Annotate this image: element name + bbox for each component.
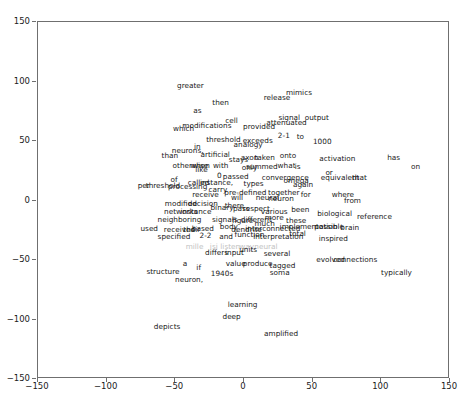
x-tick-mark bbox=[312, 378, 313, 382]
word-point: connections bbox=[333, 256, 377, 263]
word-point: what bbox=[278, 162, 296, 169]
word-point: depicts bbox=[154, 323, 180, 330]
word-point: artificial bbox=[200, 152, 230, 159]
word-point: only bbox=[242, 165, 257, 172]
x-tick-label: 0 bbox=[223, 381, 263, 391]
word-point: on bbox=[411, 164, 420, 171]
word-point: taken bbox=[254, 154, 274, 161]
word-embedding-scatter-figure: −150−100−50050100150 −150−100−5005010015… bbox=[0, 0, 475, 411]
word-point: output bbox=[305, 115, 329, 122]
x-tick-mark bbox=[243, 378, 244, 382]
y-tick-label: −50 bbox=[0, 254, 30, 264]
x-tick-mark bbox=[174, 378, 175, 382]
y-tick-label: 0 bbox=[0, 195, 30, 205]
x-tick-label: 50 bbox=[292, 381, 332, 391]
word-point: for bbox=[301, 191, 311, 198]
word-point: reference bbox=[357, 214, 392, 221]
y-tick-mark bbox=[32, 319, 36, 320]
word-point: to bbox=[297, 134, 304, 141]
x-tick-label: −150 bbox=[17, 381, 57, 391]
word-point: then bbox=[212, 99, 229, 106]
word-point: 2-1 bbox=[278, 133, 290, 140]
word-point: neuron bbox=[268, 196, 294, 203]
word-point: learning bbox=[228, 302, 258, 309]
word-point: from bbox=[344, 197, 361, 204]
word-point: typically bbox=[381, 269, 412, 276]
word-point: if bbox=[196, 265, 201, 272]
word-point: onto bbox=[280, 153, 296, 160]
word-point: been bbox=[291, 206, 309, 213]
word-point: amplified bbox=[264, 330, 298, 337]
word-point: like bbox=[195, 166, 208, 173]
word-point: again bbox=[293, 181, 313, 188]
y-tick-label: −100 bbox=[0, 314, 30, 324]
word-point: biological bbox=[317, 210, 352, 217]
word-point: used bbox=[140, 225, 158, 232]
word-point: inspired bbox=[319, 235, 348, 242]
y-tick-mark bbox=[32, 378, 36, 379]
word-point: structure bbox=[146, 268, 179, 275]
word-point: as bbox=[193, 108, 201, 115]
y-tick-label: 150 bbox=[0, 16, 30, 26]
word-point: brain bbox=[340, 224, 359, 231]
word-point: several bbox=[264, 250, 291, 257]
x-tick-label: −100 bbox=[86, 381, 126, 391]
x-tick-label: 150 bbox=[429, 381, 469, 391]
y-tick-mark bbox=[32, 259, 36, 260]
word-point: deep bbox=[223, 313, 241, 320]
y-tick-mark bbox=[32, 140, 36, 141]
word-point: will bbox=[231, 194, 243, 201]
y-tick-mark bbox=[32, 21, 36, 22]
x-tick-mark bbox=[449, 378, 450, 382]
word-point: 2-2 bbox=[200, 233, 212, 240]
y-tick-label: 50 bbox=[0, 135, 30, 145]
x-tick-mark bbox=[380, 378, 381, 382]
word-point: receive bbox=[192, 191, 219, 198]
word-point: units bbox=[239, 247, 257, 254]
x-tick-mark bbox=[37, 378, 38, 382]
word-point: activation bbox=[319, 155, 355, 162]
word-point: greater bbox=[177, 83, 204, 90]
word-point: has bbox=[387, 154, 400, 161]
word-point: interpretation bbox=[253, 234, 303, 241]
word-point: 1000 bbox=[313, 139, 332, 146]
word-point: mille bbox=[186, 243, 204, 250]
word-point: soma bbox=[270, 269, 290, 276]
word-point: with bbox=[213, 162, 228, 169]
word-point: 1940s bbox=[211, 271, 233, 278]
word-point: types bbox=[244, 180, 264, 187]
word-point: and bbox=[219, 234, 233, 241]
plot-area: greatermimicsreleasethenassignaloutputce… bbox=[37, 21, 449, 378]
word-point: analogy bbox=[234, 141, 263, 148]
x-tick-mark bbox=[106, 378, 107, 382]
word-point: that bbox=[352, 174, 367, 181]
word-point: neighboring bbox=[158, 216, 202, 223]
word-point: specified bbox=[158, 234, 191, 241]
word-point: is bbox=[295, 164, 301, 171]
word-point: release bbox=[264, 95, 291, 102]
x-tick-label: −50 bbox=[154, 381, 194, 391]
word-point: produce bbox=[243, 260, 273, 267]
y-tick-mark bbox=[32, 200, 36, 201]
word-point: which bbox=[173, 125, 194, 132]
word-point: provided bbox=[243, 123, 275, 130]
word-point: than bbox=[162, 153, 179, 160]
word-point: neuron, bbox=[175, 277, 203, 284]
y-tick-label: 100 bbox=[0, 76, 30, 86]
word-point: a bbox=[183, 260, 187, 267]
x-tick-label: 100 bbox=[360, 381, 400, 391]
y-tick-mark bbox=[32, 81, 36, 82]
